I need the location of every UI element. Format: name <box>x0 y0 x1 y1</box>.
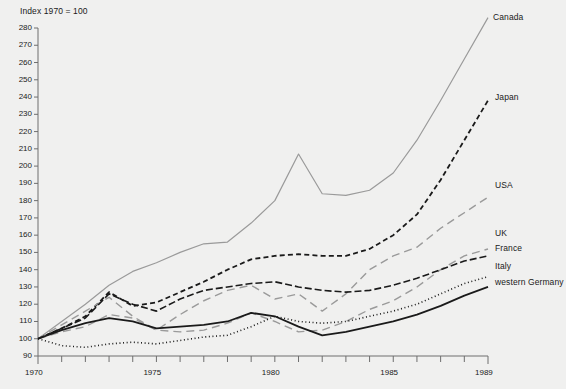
y-axis-tick-label: 90 <box>8 351 32 360</box>
series-label-uk: UK <box>495 228 507 238</box>
x-axis-tick-label: 1985 <box>380 368 398 377</box>
series-line-japan <box>38 101 488 339</box>
y-axis-tick-label: 200 <box>8 161 32 170</box>
y-axis-tick-label: 150 <box>8 247 32 256</box>
y-axis-tick-label: 180 <box>8 196 32 205</box>
series-line-italy <box>38 277 488 348</box>
series-label-western-germany: western Germany <box>495 277 564 287</box>
series-label-italy: Italy <box>495 261 511 271</box>
series-line-france <box>38 256 488 339</box>
y-axis-tick-label: 240 <box>8 92 32 101</box>
y-axis-tick-label: 280 <box>8 23 32 32</box>
series-line-western-germany <box>38 287 488 339</box>
line-chart-canvas <box>0 0 566 389</box>
y-axis-title: Index 1970 = 100 <box>20 6 88 16</box>
y-axis-tick-label: 260 <box>8 58 32 67</box>
series-label-usa: USA <box>495 180 513 190</box>
y-axis-tick-label: 270 <box>8 40 32 49</box>
y-axis-tick-label: 100 <box>8 334 32 343</box>
series-label-canada: Canada <box>493 12 523 22</box>
y-axis-tick-label: 210 <box>8 144 32 153</box>
series-label-france: France <box>495 243 522 253</box>
x-axis-tick-label: 1989 <box>475 368 493 377</box>
y-axis-tick-label: 250 <box>8 75 32 84</box>
y-axis-tick-label: 190 <box>8 178 32 187</box>
chart-container: Index 1970 = 100 90100110120130140150160… <box>0 0 566 389</box>
y-axis-tick-label: 160 <box>8 230 32 239</box>
x-axis-tick-label: 1980 <box>262 368 280 377</box>
y-axis-tick-label: 220 <box>8 127 32 136</box>
series-line-canada <box>38 18 488 339</box>
y-axis-tick-label: 130 <box>8 282 32 291</box>
series-label-japan: Japan <box>495 92 519 102</box>
x-axis-tick-label: 1970 <box>25 368 43 377</box>
y-axis-tick-label: 120 <box>8 299 32 308</box>
y-axis-tick-label: 230 <box>8 109 32 118</box>
x-axis-tick-label: 1975 <box>143 368 161 377</box>
y-axis-tick-label: 110 <box>8 316 32 325</box>
series-line-uk <box>38 249 488 339</box>
y-axis-tick-label: 140 <box>8 265 32 274</box>
y-axis-tick-label: 170 <box>8 213 32 222</box>
